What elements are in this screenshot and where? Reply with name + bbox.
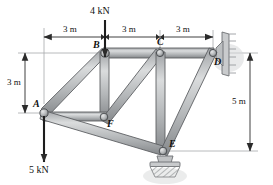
node-label-F: F [107, 119, 114, 129]
dimension-label-top-1: 3 m [63, 25, 77, 34]
member-AB [42, 49, 109, 117]
truss-members [40, 48, 217, 156]
joint-A [40, 109, 48, 117]
truss-diagram-figure: 4 kN 5 kN 3 m 3 m 3 m 3 m 5 m A B C D E … [0, 0, 273, 185]
support-E-ground [143, 156, 187, 184]
member-FC [101, 49, 163, 124]
node-label-A: A [33, 99, 40, 109]
joint-C [156, 49, 163, 56]
node-label-C: C [157, 37, 164, 47]
member-CE [156, 52, 165, 153]
dimension-label-top-2: 3 m [122, 25, 136, 34]
truss-diagram-canvas [0, 0, 273, 185]
load-label-4kn: 4 kN [90, 6, 110, 16]
member-BF [100, 52, 109, 120]
dimension-label-left-1: 3 m [7, 78, 21, 87]
support-E-hatching [150, 167, 180, 178]
node-label-D: D [214, 57, 221, 67]
joint-E [159, 147, 167, 155]
dimension-label-top-3: 3 m [176, 25, 190, 34]
support-E-plate [150, 162, 180, 167]
load-label-5kn: 5 kN [29, 165, 49, 175]
node-label-E: E [169, 139, 176, 149]
node-label-B: B [93, 40, 100, 50]
dimension-label-right-1: 5 m [232, 97, 246, 106]
